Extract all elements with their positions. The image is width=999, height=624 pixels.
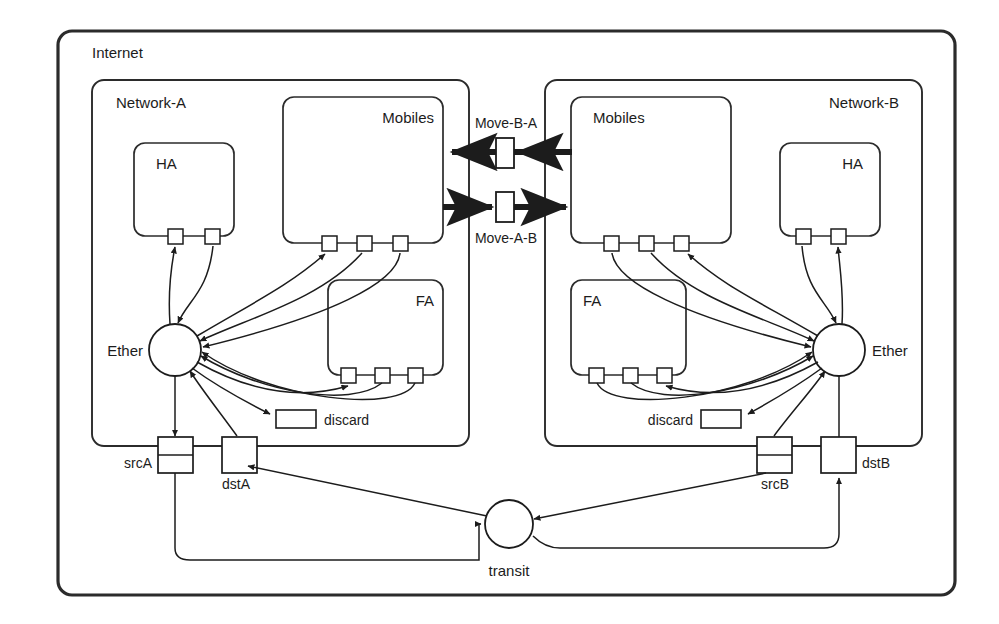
port-mobiles-a-1: [357, 236, 372, 251]
node-transit-label: transit: [489, 562, 531, 579]
agent-ha-b: [780, 143, 880, 236]
link-ether-b-to-discard-b: [748, 368, 822, 414]
link-srcb-to-transit: [534, 473, 766, 519]
port-mobiles-b-1: [639, 236, 654, 251]
port-ha-b-0: [796, 229, 811, 244]
agent-mobiles-b-label: Mobiles: [593, 109, 645, 126]
iface-dstb: [821, 437, 856, 473]
agent-mobiles-a-label: Mobiles: [382, 109, 434, 126]
internet-label: Internet: [92, 44, 144, 61]
port-fa-b-0: [589, 368, 604, 383]
port-fa-a-1: [375, 368, 390, 383]
iface-dstb-label: dstB: [862, 455, 890, 471]
link-mobiles-b-1-to-ether-b: [651, 253, 814, 341]
port-mobiles-b-2: [674, 236, 689, 251]
link-mobiles-a-1-to-ether-a: [200, 253, 362, 341]
move-a-b-label: Move-A-B: [475, 230, 537, 246]
port-fa-b-2: [657, 368, 672, 383]
move-b-a-label: Move-B-A: [475, 115, 538, 131]
agent-ha-a-label: HA: [156, 155, 177, 172]
port-ha-a-1: [205, 229, 220, 244]
network-a-label: Network-A: [116, 94, 186, 111]
link-ha-a-1-to-ether-a: [178, 246, 213, 323]
port-mobiles-b-0: [604, 236, 619, 251]
node-transit: [485, 500, 533, 548]
node-ether-b-label: Ether: [872, 342, 908, 359]
discard-a-label: discard: [324, 412, 369, 428]
port-mobiles-a-0: [322, 236, 337, 251]
agent-fa-b-label: FA: [583, 292, 601, 309]
iface-dsta-label: dstA: [222, 476, 251, 492]
port-mobiles-a-2: [393, 236, 408, 251]
iface-dsta: [222, 437, 257, 473]
link-ether-b-to-ha-b-1: [838, 247, 843, 324]
node-ether-a-label: Ether: [107, 342, 143, 359]
iface-srca-label: srcA: [124, 455, 153, 471]
link-ha-b-0-to-ether-b: [802, 246, 836, 323]
agent-ha-b-label: HA: [842, 155, 863, 172]
diagram-canvas: Internet Network-A Network-B HA Mobiles …: [0, 0, 999, 624]
agent-ha-a: [134, 143, 234, 236]
link-srca-to-transit: [175, 473, 481, 560]
iface-srcb-label: srcB: [761, 476, 789, 492]
discard-b-box: [701, 410, 741, 428]
agent-fa-a-label: FA: [416, 292, 434, 309]
port-fa-b-1: [623, 368, 638, 383]
network-mobility-diagram: Internet Network-A Network-B HA Mobiles …: [0, 0, 999, 624]
port-fa-a-0: [341, 368, 356, 383]
link-mobiles-a-2-to-ether-a: [203, 253, 400, 347]
network-b-label: Network-B: [829, 94, 899, 111]
link-transit-to-dsta: [248, 466, 487, 516]
discard-a-box: [276, 410, 316, 428]
port-fa-a-2: [408, 368, 423, 383]
link-ether-a-to-ha-a-0: [169, 247, 175, 324]
link-dsta-to-ether-a: [190, 371, 237, 436]
port-ha-a-0: [168, 229, 183, 244]
link-mobiles-b-0-to-ether-b: [612, 253, 811, 347]
discard-b-label: discard: [648, 412, 693, 428]
port-ha-b-1: [831, 229, 846, 244]
move-a-b-box: [496, 192, 514, 222]
move-b-a-box: [496, 138, 514, 168]
link-srcb-to-ether-b: [774, 371, 825, 436]
